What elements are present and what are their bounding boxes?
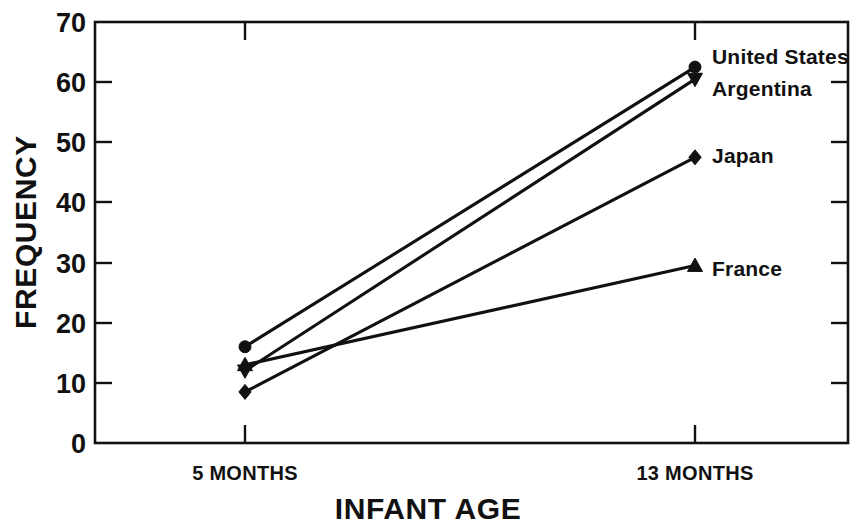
y-tick-label-0: 0 — [71, 429, 86, 459]
x-tick-label-13-months: 13 MONTHS — [636, 462, 753, 484]
series-japan — [239, 150, 701, 400]
y-tick-label-20: 20 — [56, 309, 86, 339]
y-tick-label-50: 50 — [56, 128, 86, 158]
series-label-united-states: United States — [712, 45, 849, 68]
y-axis-title: FREQUENCY — [9, 135, 42, 329]
series-line — [245, 266, 695, 365]
x-tick-label-5-months: 5 MONTHS — [192, 462, 298, 484]
series-line — [245, 79, 695, 371]
chart-canvas: 70 60 50 40 30 20 10 0 FREQUENCY 5 MONTH… — [0, 0, 857, 530]
series-label-france: France — [712, 257, 782, 280]
x-axis-title: INFANT AGE — [335, 492, 522, 525]
y-tick-label-30: 30 — [56, 249, 86, 279]
series-label-argentina: Argentina — [712, 77, 812, 100]
series-argentina — [238, 73, 703, 378]
line-chart: 70 60 50 40 30 20 10 0 FREQUENCY 5 MONTH… — [0, 0, 857, 530]
data-series-layer — [238, 61, 703, 399]
y-tick-label-60: 60 — [56, 68, 86, 98]
series-label-japan: Japan — [712, 144, 774, 167]
y-tick-label-70: 70 — [56, 8, 86, 38]
y-axis-ticks — [95, 82, 112, 383]
series-line — [245, 67, 695, 347]
series-line — [245, 157, 695, 392]
data-point-diamond — [239, 384, 251, 399]
y-tick-label-40: 40 — [56, 188, 86, 218]
series-united-states — [239, 61, 701, 353]
data-point-triangle-up — [688, 258, 703, 271]
y-tick-label-10: 10 — [56, 369, 86, 399]
data-point-diamond — [689, 150, 701, 165]
data-point-triangle-down — [688, 73, 703, 86]
data-point-circle — [239, 341, 251, 353]
data-point-circle — [689, 61, 701, 73]
x-axis-ticks — [245, 22, 695, 443]
y-axis-ticks-right — [831, 82, 848, 383]
